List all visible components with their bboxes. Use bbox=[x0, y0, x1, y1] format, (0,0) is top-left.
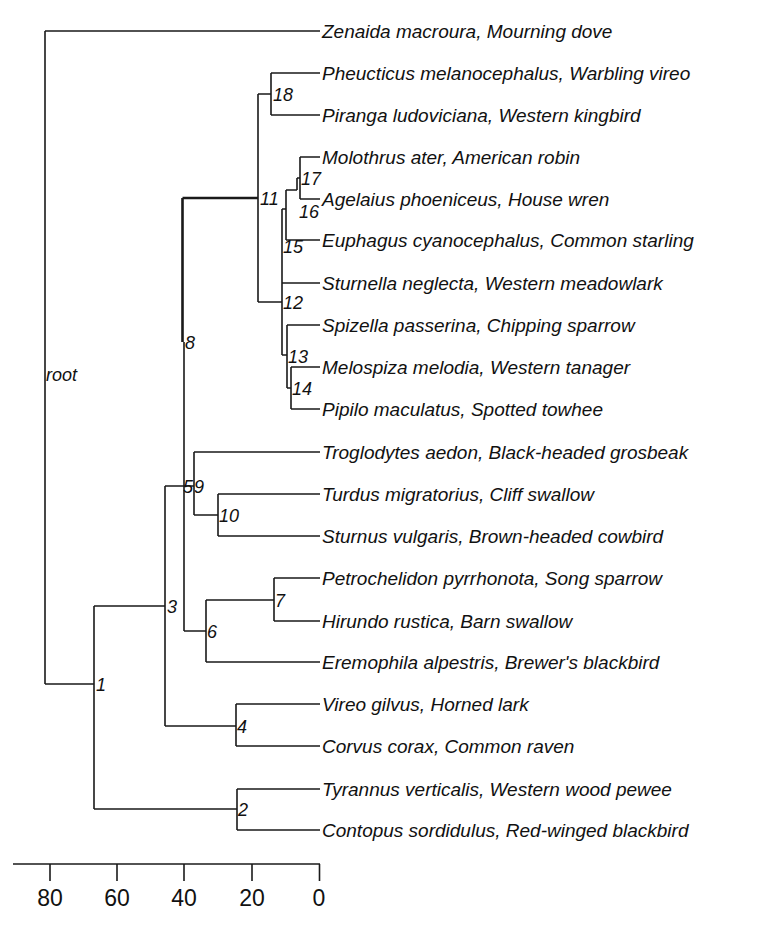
node-label-11: 11 bbox=[260, 189, 279, 209]
tip-labels: Zenaida macroura, Mourning dove Pheuctic… bbox=[321, 21, 694, 841]
branch-node-8 bbox=[183, 198, 259, 342]
tip-label: Melospiza melodia, Western tanager bbox=[322, 357, 631, 378]
tip-label: Piranga ludoviciana, Western kingbird bbox=[322, 105, 642, 126]
tip-label: Vireo gilvus, Horned lark bbox=[322, 694, 530, 715]
node-label-17: 17 bbox=[301, 169, 322, 189]
tip-label: Agelaius phoeniceus, House wren bbox=[321, 189, 609, 210]
tip-label: Petrochelidon pyrrhonota, Song sparrow bbox=[322, 568, 663, 589]
axis-tick-label: 0 bbox=[313, 885, 326, 911]
node-label-6: 6 bbox=[207, 622, 218, 642]
tip-label: Corvus corax, Common raven bbox=[322, 736, 574, 757]
node-label-3: 3 bbox=[167, 597, 177, 617]
tip-label: Tyrannus verticalis, Western wood pewee bbox=[322, 779, 672, 800]
branch-node-9 bbox=[184, 452, 320, 515]
node-label-12: 12 bbox=[283, 293, 303, 313]
node-label-7: 7 bbox=[275, 591, 286, 611]
root-label: root bbox=[46, 365, 78, 385]
axis-tick-label: 80 bbox=[37, 885, 63, 911]
node-label-4: 4 bbox=[237, 717, 247, 737]
tip-label: Sturnella neglecta, Western meadowlark bbox=[322, 273, 664, 294]
node-label-10: 10 bbox=[219, 506, 239, 526]
tip-label: Hirundo rustica, Barn swallow bbox=[322, 611, 574, 632]
node-label-15: 15 bbox=[283, 237, 304, 257]
tip-label: Contopus sordidulus, Red-winged blackbir… bbox=[322, 820, 690, 841]
axis-tick-label: 20 bbox=[239, 885, 265, 911]
phylogenetic-tree: root 1 2 3 4 5 9 8 10 6 7 11 18 12 17 16… bbox=[0, 0, 774, 933]
tree-branches bbox=[45, 31, 320, 830]
node-label-16: 16 bbox=[299, 202, 320, 222]
node-label-5: 5 bbox=[183, 477, 194, 497]
branch-root bbox=[45, 31, 320, 684]
time-axis: 80 60 40 20 0 bbox=[13, 864, 325, 911]
node-label-13: 13 bbox=[288, 347, 308, 367]
branch-node-2 bbox=[237, 789, 320, 830]
tip-label: Molothrus ater, American robin bbox=[322, 147, 580, 168]
tip-label: Pipilo maculatus, Spotted towhee bbox=[322, 399, 603, 420]
tip-label: Pheucticus melanocephalus, Warbling vire… bbox=[322, 63, 690, 84]
tip-label: Turdus migratorius, Cliff swallow bbox=[322, 484, 595, 505]
node-label-1: 1 bbox=[96, 675, 106, 695]
node-label-14: 14 bbox=[292, 379, 312, 399]
node-label-2: 2 bbox=[237, 800, 248, 820]
node-label-9: 9 bbox=[194, 477, 204, 497]
axis-tick-label: 40 bbox=[171, 885, 197, 911]
branch-node-6 bbox=[206, 600, 320, 662]
tip-label: Eremophila alpestris, Brewer's blackbird bbox=[322, 652, 661, 673]
tip-label: Spizella passerina, Chipping sparrow bbox=[322, 315, 636, 336]
tip-label: Euphagus cyanocephalus, Common starling bbox=[322, 230, 694, 251]
tip-label: Zenaida macroura, Mourning dove bbox=[321, 21, 612, 42]
node-label-18: 18 bbox=[273, 85, 293, 105]
node-label-8: 8 bbox=[185, 333, 195, 353]
axis-tick-label: 60 bbox=[104, 885, 130, 911]
branch-node-4 bbox=[236, 704, 320, 746]
tip-label: Troglodytes aedon, Black-headed grosbeak bbox=[322, 442, 690, 463]
tip-label: Sturnus vulgaris, Brown-headed cowbird bbox=[322, 526, 665, 547]
